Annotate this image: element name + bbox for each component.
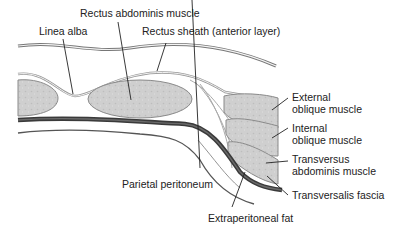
label-internal-oblique-1: Internal <box>292 122 327 134</box>
label-external-oblique-1: External <box>292 91 331 103</box>
rectus-left-edge <box>18 80 58 116</box>
label-rectus-abdominis: Rectus abdominis muscle <box>80 7 200 19</box>
label-rectus-sheath: Rectus sheath (anterior layer) <box>142 25 280 37</box>
superficial-fascia <box>18 44 276 66</box>
rectus-abdominis-shape <box>88 80 192 118</box>
label-transversalis-fascia: Transversalis fascia <box>292 189 384 201</box>
label-transversus-2: abdominis muscle <box>292 165 376 177</box>
label-parietal-peritoneum: Parietal peritoneum <box>122 178 213 190</box>
label-extraperitoneal-fat: Extraperitoneal fat <box>208 212 293 224</box>
label-internal-oblique-2: oblique muscle <box>292 134 362 146</box>
label-external-oblique-2: oblique muscle <box>292 103 362 115</box>
label-transversus-1: Transversus <box>292 153 349 165</box>
label-linea-alba: Linea alba <box>39 25 87 37</box>
